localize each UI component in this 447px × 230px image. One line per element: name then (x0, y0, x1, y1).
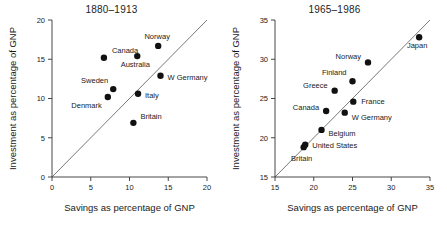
data-point-label: Denmark (71, 101, 102, 110)
plot-area-1880-1913: 0510152005101520CanadaDenmarkSwedenAustr… (0, 0, 223, 230)
y-tick-label: 5 (41, 134, 45, 143)
data-point[interactable] (134, 53, 140, 59)
data-point-label: Australia (121, 60, 151, 69)
x-tick-label: 25 (348, 183, 356, 192)
data-point[interactable] (105, 94, 111, 100)
data-point-label: Belgium (329, 129, 356, 138)
data-point-label: Norway (336, 52, 362, 61)
data-point-label: W Germany (168, 73, 208, 82)
data-point-label: Italy (145, 91, 159, 100)
y-axis-title: Investment as percentage of GNP (230, 27, 241, 170)
data-point-label: Britain (291, 154, 312, 163)
data-point-label: Norway (144, 32, 170, 41)
y-tick-label: 15 (37, 55, 45, 64)
x-axis-title: Savings as percentage of GNP (64, 202, 194, 213)
data-point[interactable] (318, 127, 324, 133)
x-tick-label: 0 (50, 183, 54, 192)
data-point[interactable] (110, 86, 116, 92)
y-tick-label: 35 (260, 16, 268, 25)
y-axis-title: Investment as percentage of GNP (7, 27, 18, 170)
data-point[interactable] (302, 142, 308, 148)
y-tick-label: 25 (260, 94, 268, 103)
y-tick-label: 15 (260, 173, 268, 182)
data-point-label: W Germany (352, 113, 392, 122)
data-point[interactable] (101, 54, 107, 60)
x-tick-label: 15 (271, 183, 279, 192)
data-point[interactable] (155, 43, 161, 49)
panel-1880-1913: 1880–1913 0510152005101520CanadaDenmarkS… (0, 0, 223, 230)
data-point[interactable] (365, 59, 371, 65)
x-axis-title: Savings as percentage of GNP (287, 202, 417, 213)
data-point[interactable] (157, 73, 163, 79)
data-point[interactable] (416, 34, 422, 40)
y-tick-label: 30 (260, 55, 268, 64)
data-point[interactable] (331, 87, 337, 93)
x-tick-label: 20 (203, 183, 211, 192)
data-point[interactable] (130, 120, 136, 126)
x-tick-label: 35 (426, 183, 434, 192)
data-point-label: Canada (112, 46, 139, 55)
y-tick-label: 20 (260, 134, 268, 143)
data-point[interactable] (135, 91, 141, 97)
x-tick-label: 15 (164, 183, 172, 192)
data-point-label: Japan (407, 41, 427, 50)
data-point[interactable] (342, 109, 348, 115)
identity-reference-line (52, 20, 207, 177)
data-point-label: Finland (322, 68, 347, 77)
x-tick-label: 20 (310, 183, 318, 192)
y-tick-label: 20 (37, 16, 45, 25)
data-point-label: Britain (140, 112, 161, 121)
x-tick-label: 30 (387, 183, 395, 192)
data-point-label: Canada (293, 103, 320, 112)
data-point-label: United States (312, 141, 357, 150)
data-point-label: Greece (303, 81, 328, 90)
data-point[interactable] (349, 78, 355, 84)
plot-area-1965-1986: 15202530351520253035BritainUnited States… (223, 0, 446, 230)
scatter-plot-figure: 1880–1913 0510152005101520CanadaDenmarkS… (0, 0, 447, 230)
data-point[interactable] (350, 98, 356, 104)
y-tick-label: 10 (37, 94, 45, 103)
data-point-label: Sweden (81, 76, 108, 85)
panel-1965-1986: 1965–1986 15202530351520253035BritainUni… (223, 0, 446, 230)
x-tick-label: 5 (89, 183, 93, 192)
y-tick-label: 0 (41, 173, 45, 182)
data-point-label: France (361, 97, 384, 106)
x-tick-label: 10 (125, 183, 133, 192)
data-point[interactable] (323, 108, 329, 114)
